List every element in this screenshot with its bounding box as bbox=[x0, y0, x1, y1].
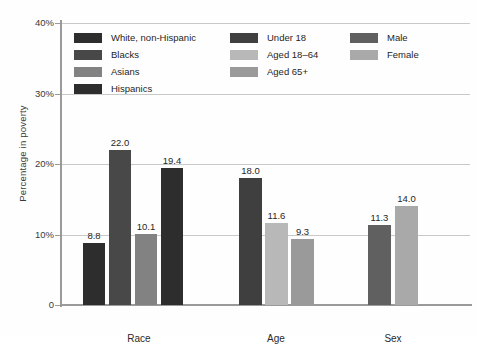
bar: 19.4 bbox=[161, 168, 183, 305]
y-axis-tick-label: 40% bbox=[4, 17, 54, 28]
y-axis-tick-label: 0 bbox=[4, 299, 54, 310]
legend-item[interactable]: Under 18 bbox=[230, 31, 318, 44]
bar: 9.3 bbox=[291, 239, 314, 305]
bar-value-label: 11.3 bbox=[371, 212, 389, 223]
legend-label: Under 18 bbox=[267, 32, 306, 43]
legend-swatch-icon bbox=[230, 67, 258, 77]
x-axis-group-label: Age bbox=[236, 333, 316, 344]
y-axis-tick bbox=[55, 23, 62, 24]
legend-item[interactable]: Hispanics bbox=[74, 82, 196, 95]
legend-label: Aged 18–64 bbox=[267, 49, 318, 60]
bar-value-label: 8.8 bbox=[87, 230, 100, 241]
y-axis-tick bbox=[55, 235, 62, 236]
legend-label: Female bbox=[387, 49, 419, 60]
legend-label: Asians bbox=[111, 66, 140, 77]
legend-column: White, non-HispanicBlacksAsiansHispanics bbox=[74, 31, 196, 99]
legend-item[interactable]: Asians bbox=[74, 65, 196, 78]
legend-label: Male bbox=[387, 32, 408, 43]
x-axis-group-label: Race bbox=[99, 333, 179, 344]
legend-swatch-icon bbox=[74, 50, 102, 60]
bar: 8.8 bbox=[83, 243, 105, 305]
bar-value-label: 10.1 bbox=[137, 221, 156, 232]
legend-item[interactable]: Male bbox=[350, 31, 419, 44]
y-axis-tick bbox=[55, 305, 62, 306]
legend-label: Aged 65+ bbox=[267, 66, 308, 77]
y-axis-tick-label: 10% bbox=[4, 229, 54, 240]
legend-item[interactable]: Female bbox=[350, 48, 419, 61]
legend-item[interactable]: Aged 18–64 bbox=[230, 48, 318, 61]
bar: 22.0 bbox=[109, 150, 131, 305]
legend-item[interactable]: Blacks bbox=[74, 48, 196, 61]
bar-value-label: 19.4 bbox=[163, 155, 182, 166]
legend-item[interactable]: White, non-Hispanic bbox=[74, 31, 196, 44]
plot-area: 010%20%30%40%8.822.010.119.4Race18.011.6… bbox=[62, 23, 470, 305]
legend-item[interactable]: Aged 65+ bbox=[230, 65, 318, 78]
legend-swatch-icon bbox=[74, 33, 102, 43]
bar: 11.6 bbox=[265, 223, 288, 305]
bar-value-label: 11.6 bbox=[268, 210, 286, 221]
legend-label: White, non-Hispanic bbox=[111, 32, 196, 43]
bar-value-label: 14.0 bbox=[397, 193, 416, 204]
bar-value-label: 18.0 bbox=[241, 165, 260, 176]
legend-swatch-icon bbox=[230, 33, 258, 43]
bar: 11.3 bbox=[368, 225, 391, 305]
legend-swatch-icon bbox=[350, 50, 378, 60]
legend-column: Under 18Aged 18–64Aged 65+ bbox=[230, 31, 318, 82]
y-axis-tick-label: 20% bbox=[4, 158, 54, 169]
x-axis-group-label: Sex bbox=[353, 333, 433, 344]
y-axis-tick bbox=[55, 94, 62, 95]
legend-label: Blacks bbox=[111, 49, 139, 60]
y-axis-tick bbox=[55, 164, 62, 165]
bar-value-label: 22.0 bbox=[111, 137, 130, 148]
legend-label: Hispanics bbox=[111, 83, 152, 94]
bar: 18.0 bbox=[239, 178, 262, 305]
bar: 10.1 bbox=[135, 234, 157, 305]
legend-swatch-icon bbox=[350, 33, 378, 43]
gridline bbox=[62, 23, 470, 24]
bar-value-label: 9.3 bbox=[296, 226, 309, 237]
bar: 14.0 bbox=[395, 206, 418, 305]
legend-swatch-icon bbox=[74, 67, 102, 77]
legend-column: MaleFemale bbox=[350, 31, 419, 65]
y-axis-tick-label: 30% bbox=[4, 88, 54, 99]
legend-swatch-icon bbox=[230, 50, 258, 60]
legend-swatch-icon bbox=[74, 84, 102, 94]
